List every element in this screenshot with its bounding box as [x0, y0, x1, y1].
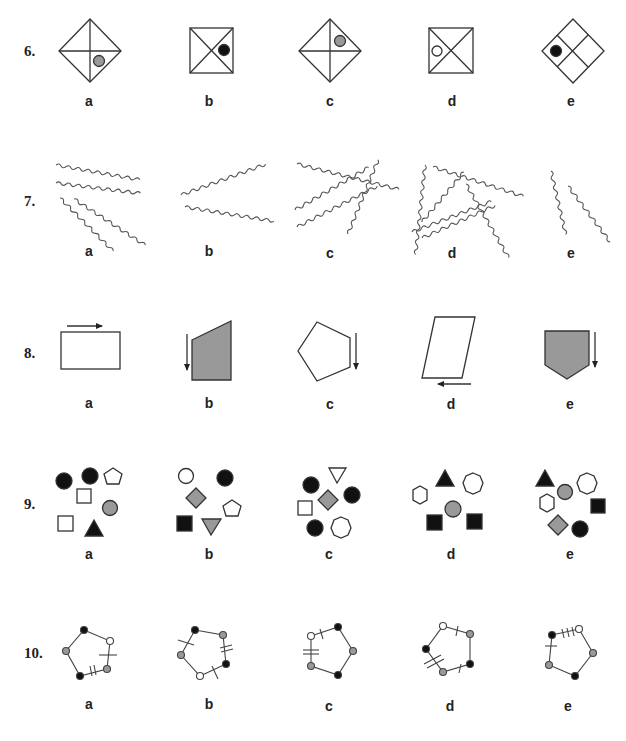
q10-option-e-figure[interactable] — [545, 626, 597, 680]
q7-option-a-figure[interactable] — [56, 164, 146, 253]
q6-option-e-figure[interactable] — [542, 19, 604, 83]
q10-option-c-figure[interactable] — [303, 624, 357, 679]
q6-option-d-figure[interactable] — [429, 28, 473, 73]
q7-option-b-figure[interactable] — [180, 163, 274, 223]
q10-option-d-figure[interactable] — [423, 623, 474, 676]
q8-option-a-figure[interactable] — [61, 326, 120, 369]
q9-option-b-figure[interactable] — [177, 469, 241, 536]
q9-option-d-figure[interactable] — [413, 470, 483, 530]
q8-option-c-figure[interactable] — [298, 322, 356, 381]
q9-option-c-figure[interactable] — [298, 468, 360, 538]
q10-option-a-figure[interactable] — [63, 627, 118, 680]
q7-option-d-figure[interactable] — [411, 165, 523, 259]
q6-option-b-figure[interactable] — [190, 28, 233, 73]
q9-option-a-figure[interactable] — [56, 468, 122, 536]
puzzle-figures — [0, 0, 626, 741]
q8-option-b-figure[interactable] — [187, 321, 231, 380]
q10-option-b-figure[interactable] — [178, 627, 234, 680]
q8-option-d-figure[interactable] — [422, 317, 475, 384]
q9-option-e-figure[interactable] — [536, 470, 605, 537]
q7-option-c-figure[interactable] — [294, 159, 399, 234]
q7-option-e-figure[interactable] — [550, 171, 612, 243]
q6-option-c-figure[interactable] — [299, 19, 361, 82]
q8-option-e-figure[interactable] — [545, 331, 595, 379]
q6-option-a-figure[interactable] — [59, 19, 121, 82]
